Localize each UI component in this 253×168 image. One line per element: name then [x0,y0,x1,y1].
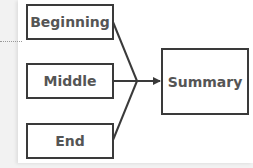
node-end: End [26,123,114,159]
node-label: Middle [43,73,96,89]
node-label: Summary [168,74,243,90]
node-summary: Summary [161,48,249,115]
edge-beginning-to-summary [113,22,137,81]
node-label: Beginning [30,14,110,30]
node-label: End [55,133,85,149]
edge-end-to-summary [113,81,137,140]
node-middle: Middle [26,63,114,99]
node-beginning: Beginning [26,4,114,40]
